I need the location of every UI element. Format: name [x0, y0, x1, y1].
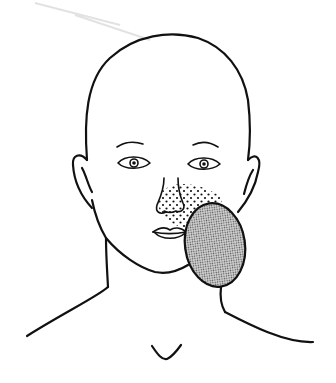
left-eye [118, 157, 150, 168]
right-eye [188, 158, 220, 169]
neck-right [221, 287, 225, 312]
right-ear [238, 156, 259, 212]
mouth [153, 228, 186, 238]
face-diagram [0, 0, 336, 383]
sternal-notch [152, 345, 181, 359]
left-shoulder [27, 287, 108, 336]
neck-left [106, 238, 108, 287]
right-eyebrow [193, 143, 218, 147]
left-eyebrow [117, 142, 143, 147]
right-shoulder [225, 312, 313, 342]
scan-artifact [35, 3, 150, 40]
left-ear [73, 155, 92, 208]
head-outline [86, 34, 250, 160]
